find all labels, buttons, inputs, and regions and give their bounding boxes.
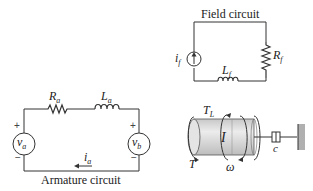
damper-label: c bbox=[273, 142, 278, 154]
armature-current-label: ia bbox=[84, 150, 91, 166]
dc-motor-diagram: Field circuit if Rf Lf Ra La bbox=[0, 0, 313, 191]
load-torque-label: TL bbox=[203, 103, 215, 119]
armature-inductor-icon bbox=[95, 105, 119, 110]
field-wire-left-bottom bbox=[194, 68, 218, 81]
field-wire-right-bottom bbox=[238, 78, 266, 81]
ground-wall-icon bbox=[298, 124, 305, 150]
field-resistor-icon bbox=[262, 42, 270, 78]
armature-resistor-label: Ra bbox=[48, 89, 60, 105]
back-emf-minus: − bbox=[131, 152, 137, 163]
armature-circuit-caption: Armature circuit bbox=[41, 173, 121, 187]
damper-icon bbox=[272, 132, 297, 142]
field-wire-top bbox=[194, 22, 266, 59]
field-circuit: Field circuit if Rf Lf bbox=[175, 7, 284, 81]
field-inductor-label: Lf bbox=[221, 63, 233, 79]
speed-label: ω bbox=[226, 160, 234, 174]
current-source-icon bbox=[187, 52, 201, 66]
field-circuit-caption: Field circuit bbox=[201, 7, 260, 21]
armature-inductor-label: La bbox=[100, 89, 112, 105]
armature-voltage-plus: + bbox=[14, 120, 20, 131]
mechanical-load: I TL T ω c bbox=[188, 103, 305, 174]
armature-resistor-icon bbox=[45, 105, 69, 113]
field-resistor-label: Rf bbox=[272, 48, 284, 64]
back-emf-plus: + bbox=[130, 120, 136, 131]
armature-voltage-minus: − bbox=[15, 152, 21, 163]
field-source-label: if bbox=[175, 51, 182, 67]
armature-circuit: Ra La va + − vb + − ia Armature circuit bbox=[13, 89, 150, 187]
